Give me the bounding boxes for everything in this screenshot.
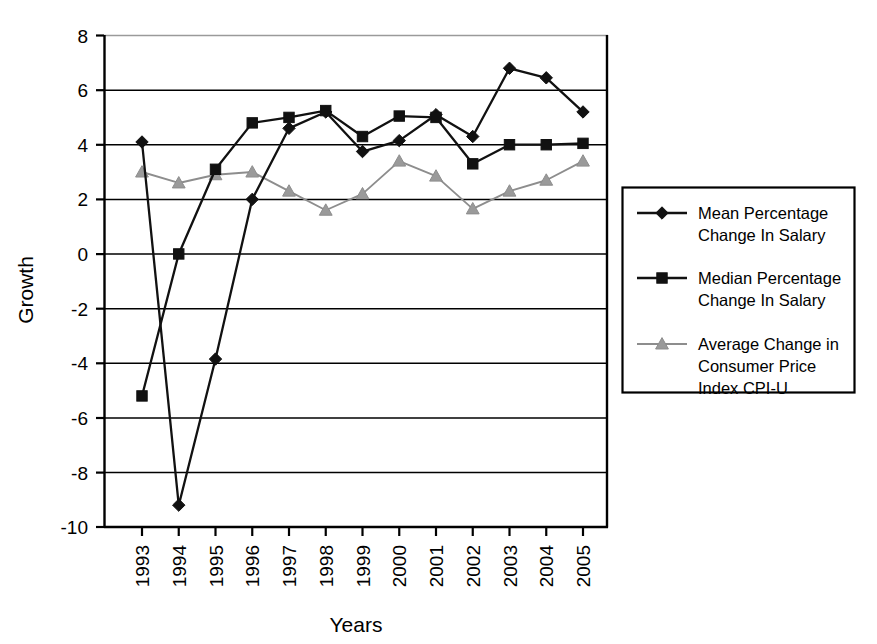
x-tick-label: 2000	[389, 545, 410, 587]
square-marker-icon	[394, 111, 404, 121]
x-tick-label: 1997	[279, 545, 300, 587]
y-axis-tick-labels: 8 6 4 2 0 -2 -4 -6 -8 -10	[61, 26, 89, 539]
x-tick-label: 2003	[500, 545, 521, 587]
y-tick-label: -8	[71, 463, 88, 484]
x-tick-label: 1995	[206, 545, 227, 587]
diamond-marker-icon	[503, 62, 515, 74]
square-marker-icon	[284, 112, 294, 122]
x-tick-label: 1999	[353, 545, 374, 587]
square-marker-icon	[541, 140, 551, 150]
square-marker-icon	[468, 159, 478, 169]
square-marker-icon	[431, 112, 441, 122]
y-tick-label: -6	[71, 408, 88, 429]
y-tick-label: 2	[77, 189, 88, 210]
y-tick-marks	[96, 36, 104, 528]
square-marker-icon	[210, 164, 220, 174]
x-tick-label: 1993	[132, 545, 153, 587]
x-tick-label: 1998	[316, 545, 337, 587]
x-tick-label: 2005	[573, 545, 594, 587]
y-tick-label: -2	[71, 299, 88, 320]
diamond-marker-icon	[246, 193, 258, 205]
x-axis-title: Years	[330, 613, 383, 636]
triangle-marker-icon	[430, 170, 443, 181]
square-marker-icon	[357, 131, 367, 141]
series-layer	[136, 62, 590, 511]
y-tick-label: 4	[77, 135, 88, 156]
triangle-marker-icon	[283, 185, 296, 196]
series-3	[136, 155, 590, 216]
x-tick-label: 2002	[463, 545, 484, 587]
x-axis-tick-labels: 1993199419951996199719981999200020012002…	[132, 545, 594, 588]
triangle-marker-icon	[319, 204, 332, 215]
y-tick-label: -10	[61, 517, 88, 538]
triangle-marker-icon	[540, 174, 553, 185]
diamond-marker-icon	[136, 136, 148, 148]
chart-canvas: 8 6 4 2 0 -2 -4 -6 -8 -10 19931994199519…	[0, 0, 877, 644]
y-axis-title: Growth	[14, 256, 37, 324]
y-tick-label: 8	[77, 26, 88, 47]
diamond-marker-icon	[173, 499, 185, 511]
legend-label: Change In Salary	[698, 291, 826, 309]
square-marker-icon	[247, 118, 257, 128]
chart-figure: 8 6 4 2 0 -2 -4 -6 -8 -10 19931994199519…	[0, 0, 877, 644]
series-1	[136, 62, 589, 511]
y-tick-label: 6	[77, 80, 88, 101]
square-marker-icon	[578, 138, 588, 148]
triangle-marker-icon	[246, 166, 259, 177]
x-tick-label: 1996	[242, 545, 263, 587]
y-tick-label: 0	[77, 244, 88, 265]
legend-label: Mean Percentage	[698, 204, 828, 222]
diamond-marker-icon	[467, 130, 479, 142]
square-marker-icon	[137, 391, 147, 401]
square-marker-icon	[504, 140, 514, 150]
triangle-marker-icon	[393, 155, 406, 166]
triangle-marker-icon	[577, 155, 590, 166]
diamond-marker-icon	[283, 122, 295, 134]
square-marker-icon	[657, 273, 667, 283]
legend-label: Median Percentage	[698, 269, 841, 287]
legend-label: Index CPI-U	[698, 379, 788, 397]
chart-legend: Mean PercentageChange In SalaryMedian Pe…	[623, 188, 855, 398]
x-tick-label: 2004	[536, 545, 557, 588]
y-tick-label: -4	[71, 353, 88, 374]
x-tick-marks	[142, 527, 583, 536]
x-tick-label: 1994	[169, 545, 190, 588]
legend-label: Change In Salary	[698, 226, 826, 244]
plot-area	[104, 35, 608, 528]
legend-label: Consumer Price	[698, 357, 816, 375]
legend-label: Average Change in	[698, 335, 839, 353]
x-tick-label: 2001	[426, 545, 447, 587]
square-marker-icon	[174, 249, 184, 259]
square-marker-icon	[321, 105, 331, 115]
